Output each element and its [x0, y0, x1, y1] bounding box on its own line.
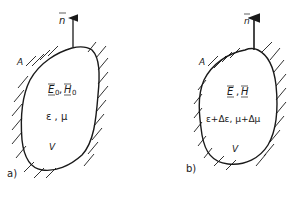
- field-H0: H: [64, 84, 72, 95]
- volume-label: V: [232, 144, 239, 154]
- cavity-diagram: n A E 0 , H 0 ε , μ V a) n A E: [0, 0, 302, 199]
- field-separator: ,: [59, 84, 62, 95]
- field-E: E: [227, 86, 234, 97]
- field-decorations: [48, 84, 248, 97]
- field-separator: ,: [236, 86, 239, 97]
- volume-label: V: [49, 142, 56, 152]
- panel-b: n A E , H ε+Δε, μ+Δμ V b): [186, 14, 286, 174]
- field-H: H: [241, 86, 249, 97]
- panel-a: n A E 0 , H 0 ε , μ V a): [7, 13, 108, 179]
- field-E0: E: [48, 84, 55, 95]
- panel-label: a): [7, 168, 17, 179]
- field-H0-subscript: 0: [72, 89, 76, 97]
- surface-label: A: [16, 57, 23, 67]
- normal-vector-label: n: [244, 16, 250, 26]
- material-params: ε , μ: [46, 111, 68, 122]
- normal-vector-label: n: [59, 15, 65, 26]
- material-params: ε+Δε, μ+Δμ: [206, 114, 261, 124]
- panel-label: b): [186, 163, 196, 174]
- surface-label: A: [198, 57, 205, 67]
